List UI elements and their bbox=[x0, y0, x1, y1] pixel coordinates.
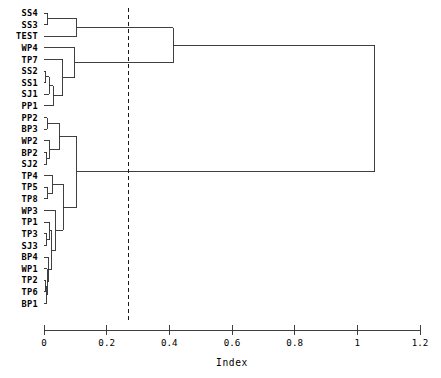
leaf-label: PP2 bbox=[22, 113, 38, 123]
dendrogram-link bbox=[75, 28, 173, 63]
dendrogram-link bbox=[44, 13, 48, 25]
leaf-label: SS1 bbox=[22, 78, 38, 88]
leaf-label: TP1 bbox=[22, 217, 38, 227]
x-axis-tick-label: 0.2 bbox=[98, 337, 115, 348]
dendrogram-link bbox=[48, 231, 51, 269]
leaf-label: BP3 bbox=[22, 124, 38, 134]
dendrogram-links bbox=[44, 13, 375, 304]
dendrogram-link bbox=[59, 136, 77, 207]
x-axis-tick-label: 0.6 bbox=[224, 337, 241, 348]
leaf-label: TP8 bbox=[22, 194, 38, 204]
leaf-label: PP1 bbox=[22, 101, 38, 111]
leaf-label: SJ3 bbox=[22, 241, 38, 251]
x-axis-tick-labels: 00.20.40.60.811.2 bbox=[41, 337, 428, 348]
dendrogram-link bbox=[44, 234, 47, 246]
leaf-label: TP4 bbox=[22, 171, 38, 181]
leaf-label: WP4 bbox=[22, 43, 38, 53]
dendrogram-link bbox=[44, 118, 47, 130]
leaf-label: BP4 bbox=[22, 252, 38, 262]
leaf-label-group: SS4SS3TESTWP4TP7SS2SS1SJ1PP1PP2BP3WP2BP2… bbox=[16, 8, 38, 309]
leaf-label: BP2 bbox=[22, 148, 38, 158]
dendrogram-link bbox=[44, 280, 45, 292]
dendrogram-plot: SS4SS3TESTWP4TP7SS2SS1SJ1PP1PP2BP3WP2BP2… bbox=[0, 0, 441, 378]
dendrogram-link bbox=[44, 71, 46, 83]
leaf-label: BP1 bbox=[22, 299, 38, 309]
dendrogram-link bbox=[77, 45, 375, 172]
dendrogram-figure: SS4SS3TESTWP4TP7SS2SS1SJ1PP1PP2BP3WP2BP2… bbox=[0, 0, 441, 378]
leaf-label: SS4 bbox=[22, 8, 38, 18]
dendrogram-link bbox=[44, 257, 48, 282]
dendrogram-link bbox=[44, 187, 48, 199]
x-axis-tick-label: 1 bbox=[355, 337, 361, 348]
leaf-label: SS3 bbox=[22, 20, 38, 30]
leaf-label: TP2 bbox=[22, 275, 38, 285]
dendrogram-link bbox=[44, 152, 47, 164]
dendrogram-link bbox=[53, 184, 64, 230]
leaf-label: TP6 bbox=[22, 287, 38, 297]
dendrogram-link bbox=[44, 48, 75, 78]
leaf-label: WP2 bbox=[22, 136, 38, 146]
leaf-label: SS2 bbox=[22, 66, 38, 76]
leaf-label: TEST bbox=[16, 31, 38, 41]
leaf-label: TP7 bbox=[22, 55, 38, 65]
x-axis-tick-label: 0.4 bbox=[161, 337, 178, 348]
leaf-label: SJ1 bbox=[22, 89, 38, 99]
x-axis-tick-label: 1.2 bbox=[412, 337, 429, 348]
dendrogram-link bbox=[44, 77, 49, 94]
leaf-label: TP3 bbox=[22, 229, 38, 239]
x-axis-title: Index bbox=[216, 357, 248, 368]
dendrogram-link bbox=[44, 176, 53, 193]
x-axis bbox=[44, 325, 420, 335]
x-axis-tick-label: 0.8 bbox=[286, 337, 303, 348]
dendrogram-link bbox=[44, 19, 77, 36]
leaf-label: SJ2 bbox=[22, 159, 38, 169]
leaf-label: WP1 bbox=[22, 264, 38, 274]
dendrogram-link bbox=[47, 123, 59, 149]
leaf-label: TP5 bbox=[22, 182, 38, 192]
leaf-label: WP3 bbox=[22, 206, 38, 216]
x-axis-tick-label: 0 bbox=[41, 337, 47, 348]
